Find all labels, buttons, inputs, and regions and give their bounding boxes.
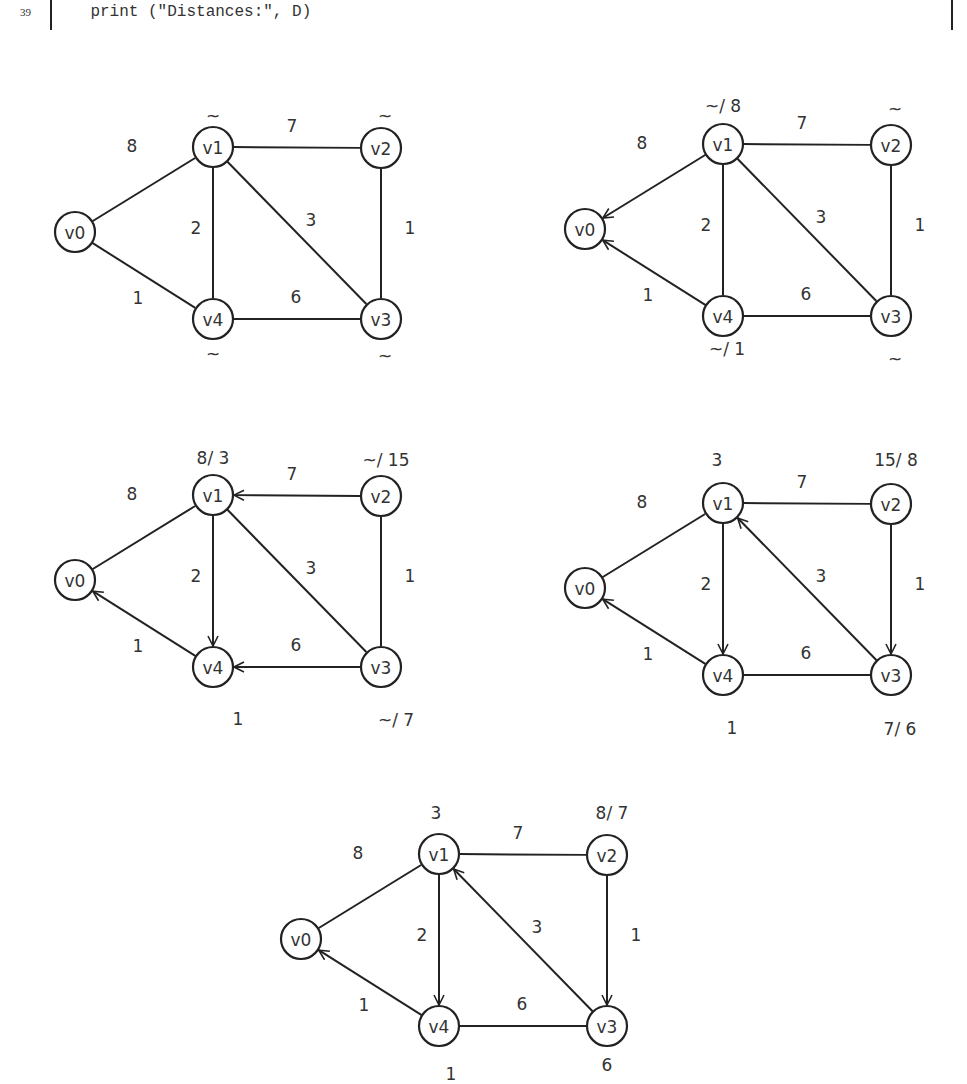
graph-step-2: 8172316v0v1v2v3v48/ 3~/ 151~/ 7 xyxy=(55,448,415,730)
distance-annotation-v2: 8/ 7 xyxy=(596,803,629,823)
node-label: v3 xyxy=(371,658,392,678)
edge-weight-label: 1 xyxy=(405,218,416,238)
distance-annotation-v2: 15/ 8 xyxy=(874,450,918,470)
node-v0: v0 xyxy=(565,568,605,608)
edge-weight-label: 1 xyxy=(643,644,654,664)
node-label: v4 xyxy=(203,658,224,678)
graph-step-0: 8172316v0v1v2v3v4~~~~ xyxy=(55,106,415,366)
node-v1: v1 xyxy=(703,483,743,523)
edge xyxy=(92,158,195,221)
directed-edge xyxy=(603,599,706,664)
node-v0: v0 xyxy=(55,560,95,600)
node-v4: v4 xyxy=(193,647,233,687)
edge-weight-label: 1 xyxy=(133,288,144,308)
node-label: v2 xyxy=(371,487,392,507)
node-v2: v2 xyxy=(361,128,401,168)
edge-weight-label: 3 xyxy=(816,566,827,586)
edge xyxy=(318,865,421,928)
directed-edge xyxy=(93,591,196,656)
node-label: v1 xyxy=(713,494,734,514)
node-v1: v1 xyxy=(193,475,233,515)
node-label: v0 xyxy=(575,220,596,240)
directed-edge xyxy=(234,495,361,496)
edge-weight-label: 6 xyxy=(291,635,302,655)
edge-weight-label: 3 xyxy=(532,917,543,937)
node-v1: v1 xyxy=(703,124,743,164)
edge-weight-label: 3 xyxy=(816,207,827,227)
edge-weight-label: 2 xyxy=(701,574,712,594)
graph-step-4: 8172316v0v1v2v3v438/ 716 xyxy=(281,803,641,1084)
node-v3: v3 xyxy=(587,1006,627,1046)
node-v3: v3 xyxy=(871,655,911,695)
edge-weight-label: 8 xyxy=(127,484,138,504)
node-v3: v3 xyxy=(871,296,911,336)
distance-annotation-v2: ~ xyxy=(378,106,392,126)
node-label: v0 xyxy=(575,579,596,599)
edge-weight-label: 1 xyxy=(915,574,926,594)
node-v4: v4 xyxy=(193,299,233,339)
edge xyxy=(227,161,366,304)
node-v4: v4 xyxy=(703,655,743,695)
node-v1: v1 xyxy=(193,127,233,167)
node-v4: v4 xyxy=(703,296,743,336)
edge xyxy=(743,144,870,145)
graph-step-3: 8172316v0v1v2v3v4315/ 817/ 6 xyxy=(565,450,925,739)
edge-weight-label: 1 xyxy=(405,566,416,586)
distance-annotation-v3: 6 xyxy=(602,1055,613,1075)
edge xyxy=(92,506,195,569)
edge-weight-label: 7 xyxy=(797,472,808,492)
node-label: v1 xyxy=(713,135,734,155)
edge-weight-label: 8 xyxy=(127,136,138,156)
node-v0: v0 xyxy=(281,919,321,959)
edge-weight-label: 1 xyxy=(631,925,642,945)
edge-weight-label: 1 xyxy=(133,636,144,656)
distance-annotation-v4: ~ xyxy=(206,344,220,364)
node-label: v3 xyxy=(597,1017,618,1037)
edge-weight-label: 8 xyxy=(637,133,648,153)
node-v4: v4 xyxy=(419,1006,459,1046)
node-v2: v2 xyxy=(587,835,627,875)
edge-weight-label: 7 xyxy=(287,464,298,484)
distance-annotation-v1: 8/ 3 xyxy=(197,448,230,468)
node-label: v1 xyxy=(429,845,450,865)
distance-annotation-v4: 1 xyxy=(233,709,244,729)
node-v3: v3 xyxy=(361,299,401,339)
node-label: v3 xyxy=(371,310,392,330)
distance-annotation-v1: ~/ 8 xyxy=(705,96,741,116)
node-label: v2 xyxy=(881,495,902,515)
edge-weight-label: 6 xyxy=(801,284,812,304)
edge-weight-label: 6 xyxy=(291,287,302,307)
edge-weight-label: 1 xyxy=(359,995,370,1015)
edge-weight-label: 7 xyxy=(513,823,524,843)
node-label: v4 xyxy=(429,1017,450,1037)
edge-weight-label: 2 xyxy=(417,925,428,945)
edge-weight-label: 8 xyxy=(353,843,364,863)
node-label: v1 xyxy=(203,138,224,158)
graph-step-1: 8172316v0v1v2v3v4~/ 8~~/ 1~ xyxy=(565,96,925,369)
distance-annotation-v4: 1 xyxy=(446,1064,457,1084)
node-label: v2 xyxy=(371,139,392,159)
edge xyxy=(459,854,586,855)
distance-annotation-v3: ~ xyxy=(888,349,902,369)
distance-annotation-v1: ~ xyxy=(206,106,220,126)
directed-edge xyxy=(603,240,706,305)
node-label: v2 xyxy=(881,136,902,156)
node-label: v4 xyxy=(203,310,224,330)
edge-weight-label: 2 xyxy=(191,566,202,586)
distance-annotation-v1: 3 xyxy=(431,803,442,823)
node-v2: v2 xyxy=(871,484,911,524)
distance-annotation-v3: ~ xyxy=(378,346,392,366)
edge-weight-label: 1 xyxy=(643,285,654,305)
node-label: v1 xyxy=(203,486,224,506)
edge-weight-label: 6 xyxy=(801,643,812,663)
edge xyxy=(92,243,195,308)
node-v3: v3 xyxy=(361,647,401,687)
edge-weight-label: 2 xyxy=(191,218,202,238)
distance-annotation-v3: ~/ 7 xyxy=(378,710,414,730)
edge xyxy=(233,147,360,148)
distance-annotation-v2: ~ xyxy=(888,99,902,119)
edge-weight-label: 7 xyxy=(287,116,298,136)
distance-annotation-v1: 3 xyxy=(712,450,723,470)
node-v0: v0 xyxy=(565,209,605,249)
edge-weight-label: 8 xyxy=(637,492,648,512)
